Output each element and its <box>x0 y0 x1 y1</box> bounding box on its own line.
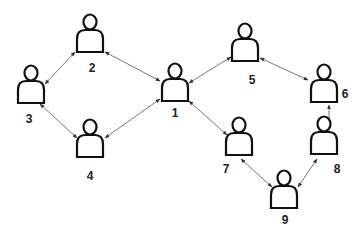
node-6: 6 <box>311 65 349 103</box>
person-icon <box>226 118 252 156</box>
edges-layer <box>40 52 329 187</box>
person-icon <box>311 65 337 103</box>
node-label: 7 <box>223 162 230 176</box>
node-label: 5 <box>249 73 256 87</box>
person-icon <box>271 171 297 209</box>
node-1: 1 <box>162 64 188 121</box>
edge-3-4 <box>40 104 77 138</box>
node-label: 3 <box>26 112 33 126</box>
node-3: 3 <box>18 66 44 127</box>
person-icon <box>232 24 258 62</box>
node-label: 6 <box>342 87 349 101</box>
node-2: 2 <box>77 15 103 76</box>
edge-9-8 <box>298 159 317 187</box>
node-label: 2 <box>89 61 96 75</box>
person-icon <box>162 64 188 102</box>
node-label: 1 <box>172 106 179 120</box>
edge-1-7 <box>189 101 227 135</box>
node-9: 9 <box>271 171 297 228</box>
edge-2-1 <box>105 52 160 81</box>
node-7: 7 <box>223 118 252 177</box>
person-icon <box>311 117 337 155</box>
node-label: 8 <box>334 162 341 176</box>
nodes-layer: 123456789 <box>18 15 349 228</box>
node-label: 4 <box>87 169 94 183</box>
node-4: 4 <box>77 120 103 184</box>
node-5: 5 <box>232 24 258 88</box>
person-icon <box>18 66 44 104</box>
edge-5-6 <box>260 58 308 80</box>
network-diagram: 123456789 <box>0 0 363 234</box>
edge-7-9 <box>241 159 272 187</box>
edge-1-4 <box>105 99 160 138</box>
person-icon <box>77 15 103 53</box>
edge-1-5 <box>189 57 231 83</box>
person-icon <box>77 120 103 158</box>
node-label: 9 <box>282 213 289 227</box>
edge-2-3 <box>45 52 75 84</box>
node-8: 8 <box>311 117 341 177</box>
